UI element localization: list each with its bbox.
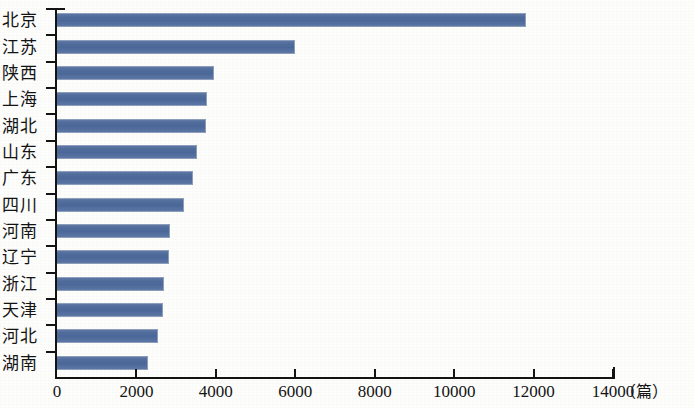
x-axis-tick-label: 8000 xyxy=(358,382,392,402)
y-axis-tick xyxy=(46,61,56,63)
y-axis-tick xyxy=(46,113,56,115)
y-axis-tick xyxy=(46,166,56,168)
y-axis-tick xyxy=(46,8,56,10)
bar xyxy=(57,356,148,370)
x-axis-unit-label: （篇） xyxy=(620,382,668,402)
y-axis-tick xyxy=(46,219,56,221)
category-label: 广东 xyxy=(2,170,52,188)
x-axis-tick-label: 12000 xyxy=(512,382,555,402)
category-label: 天津 xyxy=(2,302,52,320)
x-axis-tick xyxy=(135,369,137,379)
bar xyxy=(57,119,206,133)
category-label: 湖北 xyxy=(2,118,52,136)
y-axis-tick xyxy=(46,272,56,274)
bar xyxy=(57,13,526,27)
y-axis-tick xyxy=(46,34,56,36)
bar xyxy=(57,224,170,238)
x-axis-tick-label: 6000 xyxy=(278,382,312,402)
bar-chart-figure: 北京江苏陕西上海湖北山东广东四川河南辽宁浙江天津河北湖南 02000400060… xyxy=(0,0,694,408)
y-axis-top-end-tick xyxy=(55,8,65,10)
x-axis-tick xyxy=(612,369,614,379)
bar xyxy=(57,303,163,317)
bar xyxy=(57,92,207,106)
x-axis-tick xyxy=(374,369,376,379)
x-axis-tick-label: 2000 xyxy=(119,382,153,402)
category-label: 四川 xyxy=(2,197,52,215)
x-axis-line xyxy=(55,377,615,379)
category-label: 河北 xyxy=(2,328,52,346)
y-axis-tick xyxy=(46,351,56,353)
category-label: 江苏 xyxy=(2,39,52,57)
category-label: 浙江 xyxy=(2,276,52,294)
x-axis-tick xyxy=(453,369,455,379)
category-label: 辽宁 xyxy=(2,249,52,267)
y-axis-tick xyxy=(46,140,56,142)
x-axis-tick xyxy=(294,369,296,379)
y-axis-tick xyxy=(46,298,56,300)
category-label: 河南 xyxy=(2,223,52,241)
category-label: 北京 xyxy=(2,12,52,30)
bar xyxy=(57,66,214,80)
bar xyxy=(57,40,295,54)
bar xyxy=(57,171,193,185)
bar xyxy=(57,198,184,212)
y-axis-tick xyxy=(46,245,56,247)
category-label: 陕西 xyxy=(2,65,52,83)
category-label: 湖南 xyxy=(2,355,52,373)
y-axis-tick xyxy=(46,193,56,195)
x-axis-tick-label: 4000 xyxy=(199,382,233,402)
y-axis-tick xyxy=(46,324,56,326)
x-axis-tick-label: 10000 xyxy=(433,382,476,402)
bar xyxy=(57,145,197,159)
y-axis-tick xyxy=(46,87,56,89)
x-axis-tick-label: 0 xyxy=(53,382,62,402)
bar xyxy=(57,277,164,291)
x-axis-tick xyxy=(533,369,535,379)
bar xyxy=(57,250,169,264)
category-label: 上海 xyxy=(2,91,52,109)
category-label: 山东 xyxy=(2,144,52,162)
bar xyxy=(57,329,158,343)
x-axis-tick xyxy=(215,369,217,379)
